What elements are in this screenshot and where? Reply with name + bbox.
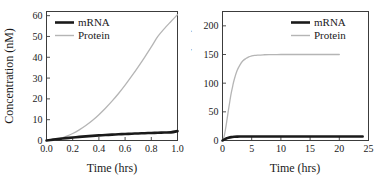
left-axes-frame (47, 12, 178, 141)
figure-two-panel-line-charts: 0.00.20.40.60.81.0 0102030405060 mRNA Pr… (0, 0, 382, 188)
x-tick-label: 0.2 (66, 143, 79, 154)
x-tick-label: 0 (220, 143, 225, 154)
x-tick-label: 5 (249, 143, 254, 154)
x-tick-label: 10 (276, 143, 286, 154)
x-tick-label: 0.6 (119, 143, 132, 154)
left-y-tick-labels: 0102030405060 (33, 10, 43, 146)
left-plot-svg: 0.00.20.40.60.81.0 0102030405060 mRNA Pr… (0, 0, 191, 188)
y-tick-label: 50 (33, 31, 43, 42)
x-tick-label: 15 (305, 143, 315, 154)
left-x-tick-labels: 0.00.20.40.60.81.0 (40, 143, 184, 154)
y-tick-label: 40 (33, 52, 43, 63)
y-tick-label: 20 (33, 93, 43, 104)
legend-label-mrna: mRNA (78, 16, 110, 28)
right-x-tick-labels: 0510152025 (220, 143, 374, 154)
x-tick-label: 20 (334, 143, 344, 154)
x-tick-label: 0.4 (93, 143, 106, 154)
y-tick-label: 150 (204, 49, 219, 60)
y-tick-label: 10 (33, 114, 43, 125)
chart-panel-left: 0.00.20.40.60.81.0 0102030405060 mRNA Pr… (0, 0, 191, 188)
legend-label-protein: Protein (314, 29, 346, 41)
y-tick-label: 100 (204, 78, 219, 89)
left-x-axis-label: Time (hrs) (87, 161, 138, 175)
left-y-axis-label: Concentration (nM) (2, 28, 16, 124)
legend-label-mrna: mRNA (314, 16, 346, 28)
y-tick-label: 200 (204, 20, 219, 31)
x-tick-label: 0.8 (145, 143, 158, 154)
y-tick-label: 0 (38, 135, 43, 146)
legend-label-protein: Protein (78, 29, 110, 41)
y-tick-label: 60 (33, 10, 43, 21)
right-axes-frame (223, 12, 369, 141)
right-plot-svg: 0510152025 050100150200 mRNA Protein Tim… (191, 0, 382, 188)
right-y-axis-label: Concentration (nM) (191, 28, 192, 124)
right-y-tick-labels: 050100150200 (204, 20, 219, 146)
y-tick-label: 0 (214, 135, 219, 146)
x-tick-label: 1.0 (171, 143, 184, 154)
y-tick-label: 30 (33, 73, 43, 84)
y-tick-label: 50 (209, 106, 219, 117)
chart-panel-right: 0510152025 050100150200 mRNA Protein Tim… (191, 0, 382, 188)
x-tick-label: 25 (364, 143, 374, 154)
right-x-axis-label: Time (hrs) (270, 161, 321, 175)
